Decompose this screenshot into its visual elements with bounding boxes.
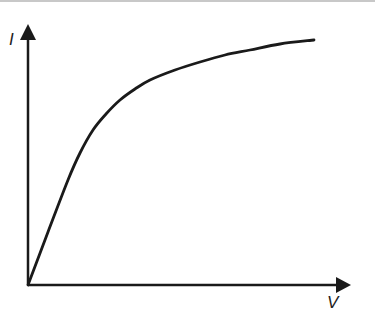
x-axis-arrow-icon <box>336 277 351 293</box>
y-axis-label: I <box>9 30 14 50</box>
iv-curve-diagram <box>0 0 375 312</box>
iv-curve <box>28 40 314 285</box>
x-axis-label: V <box>327 293 338 312</box>
y-axis-arrow-icon <box>20 24 36 40</box>
